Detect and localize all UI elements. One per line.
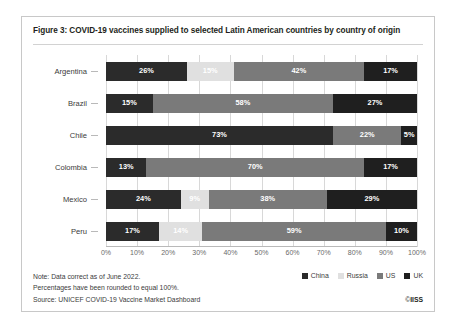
bar-segment-label: 17% <box>125 227 140 234</box>
bar-segment-label: 17% <box>383 163 398 170</box>
x-axis-tick-label: 40% <box>223 249 237 256</box>
bar-segment-label: 24% <box>136 195 151 202</box>
bar-segment[interactable]: 26% <box>106 62 187 81</box>
x-axis-tick-label: 60% <box>286 249 300 256</box>
bar-segment[interactable]: 5% <box>401 126 417 145</box>
category-label-row: Brazil <box>22 94 98 113</box>
bar-segment-label: 59% <box>287 227 302 234</box>
bar-segment[interactable]: 17% <box>106 222 159 241</box>
category-label: Argentina <box>54 67 87 76</box>
gridline <box>324 55 325 247</box>
bar-segment-label: 9% <box>189 195 200 202</box>
category-tick <box>91 71 98 72</box>
x-axis-tick-label: 30% <box>192 249 206 256</box>
bar-row[interactable]: 73%22%5% <box>106 126 417 145</box>
bar-segment[interactable]: 73% <box>106 126 333 145</box>
category-axis: ArgentinaBrazilChileColombiaMexicoPeru <box>22 55 98 247</box>
bar-segment[interactable]: 17% <box>364 62 417 81</box>
gridline <box>137 55 138 247</box>
bar-segment-label: 27% <box>368 99 383 106</box>
bar-segment-label: 15% <box>122 99 137 106</box>
gridlines <box>106 55 417 247</box>
bar-segment-label: 70% <box>248 163 263 170</box>
category-label-row: Mexico <box>22 190 98 209</box>
bar-row[interactable]: 17%14%59%10% <box>106 222 417 241</box>
x-axis-tick-label: 70% <box>317 249 331 256</box>
bar-segment[interactable]: 59% <box>202 222 385 241</box>
category-label-row: Argentina <box>22 62 98 81</box>
category-label: Brazil <box>68 99 87 108</box>
bar-segment[interactable]: 27% <box>333 94 417 113</box>
gridline <box>355 55 356 247</box>
x-axis-tick-label: 10% <box>130 249 144 256</box>
x-axis-line <box>106 246 417 247</box>
category-tick <box>91 103 98 104</box>
bar-segment[interactable]: 38% <box>209 190 327 209</box>
bar-segment-label: 38% <box>260 195 275 202</box>
bar-segment[interactable]: 15% <box>187 62 234 81</box>
legend-item[interactable]: UK <box>404 272 423 279</box>
bar-segment[interactable]: 24% <box>106 190 181 209</box>
gridline <box>230 55 231 247</box>
bar-segment[interactable]: 58% <box>153 94 333 113</box>
bar-row[interactable]: 15%58%27% <box>106 94 417 113</box>
bar-segment-label: 29% <box>364 195 379 202</box>
note-line-2: Percentages have been rounded to equal 1… <box>33 283 179 294</box>
bar-row[interactable]: 24%9%38%29% <box>106 190 417 209</box>
bar-segment[interactable]: 9% <box>181 190 209 209</box>
legend-item[interactable]: US <box>377 272 396 279</box>
bar-row[interactable]: 13%70%17% <box>106 158 417 177</box>
bar-segment[interactable]: 22% <box>333 126 401 145</box>
bar-segment-label: 14% <box>173 227 188 234</box>
bar-segment-label: 5% <box>404 131 415 138</box>
category-label: Peru <box>71 227 87 236</box>
gridline <box>417 55 418 247</box>
x-axis-tick-label: 50% <box>254 249 268 256</box>
bar-segment[interactable]: 29% <box>327 190 417 209</box>
bar-segment[interactable]: 14% <box>159 222 203 241</box>
bar-segment[interactable]: 70% <box>146 158 364 177</box>
legend-label: Russia <box>347 272 368 279</box>
category-label-row: Colombia <box>22 158 98 177</box>
x-axis-tick-label: 90% <box>379 249 393 256</box>
bar-segment-label: 26% <box>139 67 154 74</box>
note-line-1: Note: Data correct as of June 2022. <box>33 272 179 283</box>
category-tick <box>91 199 98 200</box>
bar-row[interactable]: 26%15%42%17% <box>106 62 417 81</box>
bar-segment[interactable]: 42% <box>234 62 365 81</box>
bar-segment-label: 73% <box>212 131 227 138</box>
bar-segment[interactable]: 10% <box>386 222 417 241</box>
gridline <box>262 55 263 247</box>
category-label-row: Chile <box>22 126 98 145</box>
bar-segment[interactable]: 15% <box>106 94 153 113</box>
legend-swatch <box>404 273 410 279</box>
copyright-owner: IISS <box>410 296 423 303</box>
bar-segment-label: 58% <box>235 99 250 106</box>
figure-card: Figure 3: COVID-19 vaccines supplied to … <box>21 16 435 312</box>
x-axis-tick-labels: 0%10%20%30%40%50%60%70%80%90%100% <box>106 249 417 263</box>
chart-note: Note: Data correct as of June 2022. Perc… <box>33 272 179 293</box>
x-axis-tick-label: 0% <box>101 249 111 256</box>
chart-legend: ChinaRussiaUSUK <box>302 272 423 279</box>
category-label: Mexico <box>63 195 87 204</box>
category-label: Chile <box>70 131 87 140</box>
gridline <box>106 55 107 247</box>
legend-label: US <box>386 272 396 279</box>
bar-segment-label: 15% <box>203 67 218 74</box>
chart-source: Source: UNICEF COVID-19 Vaccine Market D… <box>33 296 200 303</box>
bar-segment-label: 13% <box>119 163 134 170</box>
bar-segment[interactable]: 17% <box>364 158 417 177</box>
page-title: Figure 3: COVID-19 vaccines supplied to … <box>33 26 423 35</box>
gridline <box>199 55 200 247</box>
bar-segment-label: 17% <box>383 67 398 74</box>
gridline <box>386 55 387 247</box>
legend-item[interactable]: Russia <box>338 272 368 279</box>
category-tick <box>91 231 98 232</box>
x-axis-tick-label: 80% <box>348 249 362 256</box>
bar-segment-label: 10% <box>394 227 409 234</box>
legend-item[interactable]: China <box>302 272 329 279</box>
bar-segment[interactable]: 13% <box>106 158 146 177</box>
title-divider <box>33 44 423 45</box>
gridline <box>293 55 294 247</box>
legend-label: UK <box>413 272 423 279</box>
